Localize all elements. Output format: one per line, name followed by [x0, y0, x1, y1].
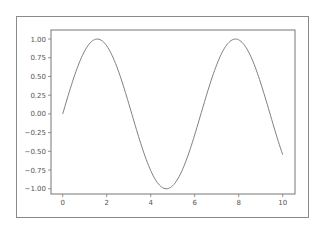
plot-area: [51, 30, 295, 194]
y-tick-label: 0.25: [30, 92, 46, 100]
y-axis: 1.000.750.500.250.00−0.25−0.50−0.75−1.00: [25, 36, 51, 194]
y-tick-label: 0.00: [30, 110, 46, 118]
y-tick-label: 0.75: [30, 54, 46, 62]
y-tick-label: 1.00: [30, 36, 46, 44]
y-tick-label: −0.50: [25, 148, 46, 156]
y-tick-label: 0.50: [30, 73, 46, 81]
sine-series-line: [63, 39, 283, 189]
x-tick-label: 10: [278, 199, 287, 207]
x-tick-label: 6: [192, 199, 197, 207]
x-tick-label: 4: [148, 199, 153, 207]
x-tick-label: 0: [60, 199, 64, 207]
x-tick-label: 2: [104, 199, 108, 207]
sine-line-chart: 1.000.750.500.250.00−0.25−0.50−0.75−1.00…: [0, 0, 328, 230]
y-tick-label: −0.75: [25, 167, 46, 175]
y-tick-label: −1.00: [25, 185, 46, 193]
x-tick-label: 8: [236, 199, 240, 207]
y-tick-label: −0.25: [25, 129, 46, 137]
x-axis: 0246810: [60, 194, 287, 207]
